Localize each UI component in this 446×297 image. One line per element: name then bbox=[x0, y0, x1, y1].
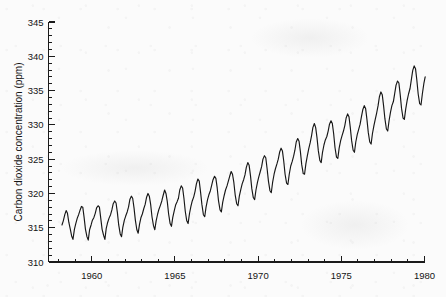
x-axis: 19601965197019751980 bbox=[49, 256, 436, 281]
y-tick-label: 335 bbox=[28, 85, 44, 96]
x-tick-label: 1960 bbox=[81, 270, 102, 281]
y-tick-label: 345 bbox=[28, 17, 44, 28]
y-tick-label: 330 bbox=[28, 119, 44, 130]
data-series-group bbox=[62, 66, 425, 240]
y-tick-label: 325 bbox=[28, 154, 44, 165]
y-tick-label: 310 bbox=[28, 257, 44, 268]
x-tick-label: 1965 bbox=[164, 270, 185, 281]
y-tick-label: 315 bbox=[28, 222, 44, 233]
y-axis-title: Carbon dioxide concentration (ppm) bbox=[13, 63, 24, 222]
x-tick-label: 1970 bbox=[248, 270, 269, 281]
y-tick-label: 340 bbox=[28, 51, 44, 62]
y-tick-label: 320 bbox=[28, 188, 44, 199]
x-tick-label: 1975 bbox=[331, 270, 352, 281]
y-axis: 310315320325330335340345 bbox=[28, 17, 55, 268]
y-axis-title-text: Carbon dioxide concentration (ppm) bbox=[13, 63, 24, 222]
series-line bbox=[62, 66, 425, 240]
x-tick-label: 1980 bbox=[414, 270, 435, 281]
co2-line-chart: 310315320325330335340345 196019651970197… bbox=[0, 0, 446, 297]
chart-figure: 310315320325330335340345 196019651970197… bbox=[0, 0, 446, 297]
